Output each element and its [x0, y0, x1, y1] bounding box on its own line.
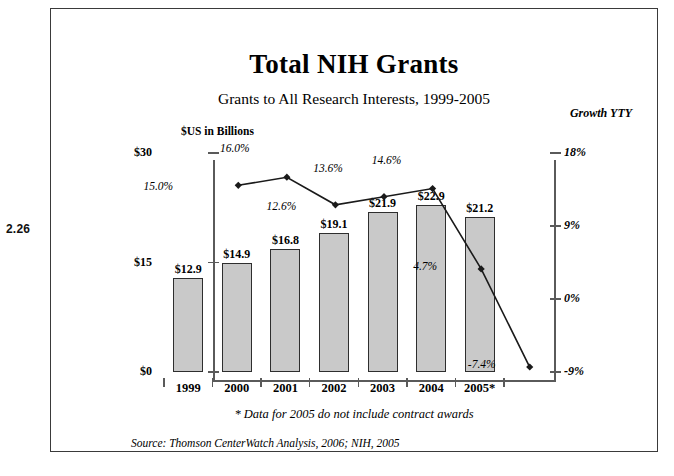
- x-axis-tick: [309, 378, 310, 387]
- x-axis-category-label: 2005*: [450, 381, 510, 396]
- growth-value-label: 15.0%: [130, 180, 186, 192]
- bar-value-label: $21.2: [450, 201, 510, 216]
- y2-axis-tick-label: 9%: [564, 218, 612, 233]
- y-axis-tick: [208, 371, 219, 372]
- y2-axis-tick-label: -9%: [564, 364, 612, 379]
- figure-number: 2.26: [6, 222, 30, 236]
- y2-axis-tick: [550, 225, 561, 226]
- growth-value-label: 13.6%: [300, 162, 356, 174]
- chart-title: Total NIH Grants: [51, 49, 657, 80]
- footnote: * Data for 2005 do not include contract …: [51, 407, 657, 422]
- bar[interactable]: [465, 217, 495, 372]
- y2-axis-tick: [550, 371, 561, 372]
- x-axis-tick: [212, 378, 213, 387]
- y2-axis-tick: [550, 152, 561, 153]
- bar-value-label: $19.1: [304, 217, 364, 232]
- growth-value-label: 16.0%: [207, 142, 263, 154]
- bar[interactable]: [222, 263, 252, 372]
- bar[interactable]: [416, 205, 446, 372]
- bar-value-label: $16.8: [255, 233, 315, 248]
- bar[interactable]: [319, 233, 349, 372]
- y2-axis-caption: Growth YTY: [563, 106, 639, 120]
- y2-axis-line: [554, 160, 556, 381]
- y-axis-tick-label: $30: [92, 145, 152, 160]
- y2-axis-tick-label: 18%: [564, 145, 612, 160]
- y2-axis-tick: [550, 298, 561, 299]
- bar[interactable]: [173, 278, 203, 372]
- bar-value-label: $12.9: [158, 262, 218, 277]
- x-axis-tick: [406, 378, 407, 387]
- growth-value-label: 14.6%: [359, 154, 415, 166]
- x-axis-tick: [503, 378, 504, 387]
- growth-value-label: 12.6%: [253, 200, 309, 212]
- growth-value-label: 4.7%: [397, 260, 453, 272]
- x-axis-tick: [358, 378, 359, 387]
- x-axis-tick: [260, 378, 261, 387]
- y-axis-tick-label: $15: [92, 255, 152, 270]
- x-axis-tick: [455, 378, 456, 387]
- y-axis-tick-label: $0: [92, 364, 152, 379]
- x-axis-tick: [163, 378, 164, 387]
- bar[interactable]: [270, 249, 300, 372]
- y-axis-caption: $US in Billions: [181, 125, 254, 137]
- source-note: Source: Thomson CenterWatch Analysis, 20…: [131, 437, 400, 449]
- bar-value-label: $14.9: [207, 247, 267, 262]
- growth-value-label: -7.4%: [454, 358, 510, 370]
- y2-axis-tick-label: 0%: [564, 291, 612, 306]
- bar[interactable]: [368, 212, 398, 372]
- figure-frame: Total NIH Grants Grants to All Research …: [50, 8, 658, 452]
